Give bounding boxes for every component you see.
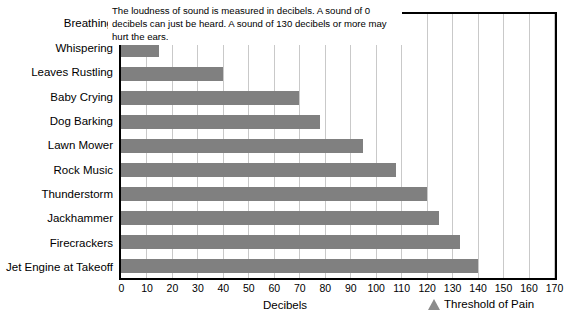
annotation-textbox: The loudness of sound is measured in dec… <box>108 3 402 45</box>
bar-row <box>121 158 555 182</box>
category-label: Whispering <box>0 36 118 60</box>
legend-label: Threshold of Pain <box>444 298 534 310</box>
bar <box>121 187 427 202</box>
bar <box>121 115 320 130</box>
category-label: Firecrackers <box>0 231 118 255</box>
bar <box>121 163 396 178</box>
bar-row <box>121 134 555 158</box>
bar <box>121 211 439 226</box>
bar <box>121 259 478 274</box>
bar-row <box>121 86 555 110</box>
category-label: Jackhammer <box>0 207 118 231</box>
chart-figure: Noise Levels of Common Sounds BreathingW… <box>0 0 572 319</box>
x-tick-label: 160 <box>520 282 538 294</box>
x-tick-label: 110 <box>393 282 410 294</box>
chart-title: Noise Levels of Common Sounds <box>118 0 558 2</box>
bar <box>121 235 460 250</box>
x-axis-title: Decibels <box>263 299 307 311</box>
x-tick-label: 80 <box>319 282 331 294</box>
x-tick-label: 0 <box>119 282 125 294</box>
bar-row <box>121 206 555 230</box>
bar-row <box>121 110 555 134</box>
x-tick-label: 60 <box>268 282 280 294</box>
category-label: Rock Music <box>0 158 118 182</box>
bar <box>121 91 299 106</box>
x-tick-label: 50 <box>243 282 255 294</box>
legend: Threshold of Pain <box>428 298 534 310</box>
x-tick-label: 20 <box>167 282 179 294</box>
bar-series <box>121 14 555 278</box>
x-tick-label: 90 <box>345 282 357 294</box>
x-tick-label: 150 <box>495 282 513 294</box>
bar-row <box>121 62 555 86</box>
x-tick-label: 30 <box>192 282 204 294</box>
bar-row <box>121 230 555 254</box>
x-tick-label: 130 <box>444 282 462 294</box>
triangle-up-icon <box>428 299 440 310</box>
x-tick-label: 40 <box>218 282 230 294</box>
category-label: Dog Barking <box>0 109 118 133</box>
plot-area <box>119 12 557 280</box>
category-label: Thunderstorm <box>0 183 118 207</box>
bar <box>121 67 223 82</box>
bar-row <box>121 254 555 278</box>
x-axis-tick-labels: 0102030405060708090100110120130140150160… <box>119 282 557 296</box>
x-tick-label: 120 <box>418 282 436 294</box>
x-tick-label: 100 <box>367 282 385 294</box>
category-label: Jet Engine at Takeoff <box>0 256 118 280</box>
x-tick-label: 140 <box>469 282 487 294</box>
x-tick-label: 70 <box>294 282 306 294</box>
bar <box>121 139 363 154</box>
bar-row <box>121 182 555 206</box>
category-axis-labels: BreathingWhisperingLeaves RustlingBaby C… <box>0 12 118 280</box>
x-tick-label: 10 <box>141 282 153 294</box>
x-tick-label: 170 <box>546 282 564 294</box>
category-label: Baby Crying <box>0 85 118 109</box>
category-label: Leaves Rustling <box>0 61 118 85</box>
category-label: Breathing <box>0 12 118 36</box>
category-label: Lawn Mower <box>0 134 118 158</box>
